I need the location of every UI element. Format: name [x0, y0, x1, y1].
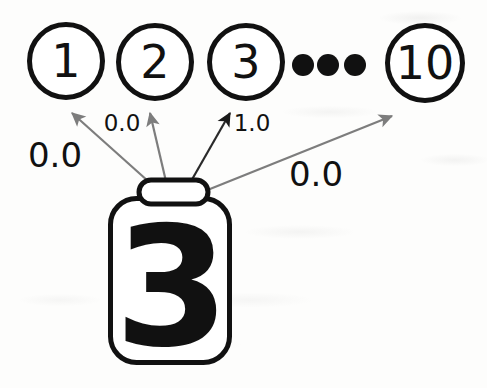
diagram-page: 0.0 0.0 1.0 0.0 1 2 3 10 — [0, 0, 487, 388]
node-10-label: 10 — [396, 36, 455, 90]
edge-label-to-node-10: 0.0 — [289, 154, 343, 194]
edge-label-to-node-3: 1.0 — [234, 110, 271, 136]
node-3-label: 3 — [231, 35, 260, 89]
edge-label-to-node-2: 0.0 — [104, 110, 141, 136]
node-10[interactable]: 10 — [388, 26, 463, 101]
bottle-node-label: 3 — [115, 192, 230, 384]
node-3[interactable]: 3 — [210, 26, 283, 99]
ellipsis-dot-3 — [344, 54, 366, 76]
diagram-canvas: 0.0 0.0 1.0 0.0 1 2 3 10 — [0, 0, 487, 388]
edge-label-to-node-1: 0.0 — [28, 135, 82, 175]
ellipsis-dot-1 — [292, 54, 314, 76]
ellipsis-dots — [292, 54, 366, 76]
node-2-label: 2 — [140, 35, 169, 89]
target-nodes-group: 1 2 3 10 — [30, 25, 463, 101]
ellipsis-dot-2 — [317, 54, 339, 76]
node-1-label: 1 — [51, 34, 80, 88]
node-2[interactable]: 2 — [119, 26, 192, 99]
bottle-node[interactable]: 3 — [111, 180, 230, 384]
node-1[interactable]: 1 — [30, 25, 103, 98]
